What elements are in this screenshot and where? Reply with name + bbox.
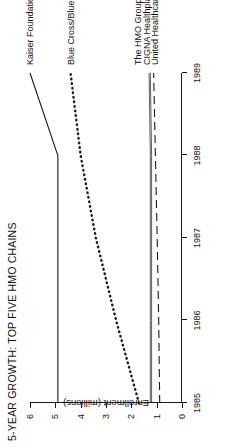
x-tick-label: 1987	[192, 228, 202, 248]
y-tick-label: 2	[126, 414, 136, 419]
x-tick-label: 1988	[192, 145, 202, 165]
series-label: Kaiser Foundation Health Plan	[25, 0, 35, 65]
x-tick-label: 1989	[192, 63, 202, 83]
y-tick-label: 4	[76, 414, 86, 419]
chart-title: 5-YEAR GROWTH: TOP FIVE HMO CHAINS	[6, 222, 18, 441]
x-tick	[182, 155, 187, 156]
rotated-chart-stage: 5-YEAR GROWTH: TOP FIVE HMO CHAINS 19851…	[0, 0, 237, 447]
series-line	[71, 73, 139, 403]
y-tick-label: 1	[152, 414, 162, 419]
x-tick	[182, 320, 187, 321]
series-label: United Healthcare Corp.	[150, 0, 160, 65]
plot-area: 19851986198719881989 0123456 Enrollment …	[30, 73, 182, 403]
y-tick	[182, 403, 183, 408]
y-tick	[157, 403, 158, 408]
x-tick	[182, 72, 187, 73]
y-tick-label: 0	[177, 414, 187, 419]
y-tick-label: 5	[50, 414, 60, 419]
x-tick	[182, 237, 187, 238]
series-line	[149, 73, 150, 403]
series-lines	[30, 73, 182, 403]
y-tick-label: 3	[101, 414, 111, 419]
series-line	[154, 73, 160, 403]
series-line	[30, 73, 58, 403]
y-tick	[30, 403, 31, 408]
y-tick-label: 6	[25, 414, 35, 419]
y-tick	[55, 403, 56, 408]
x-tick-label: 1985	[192, 393, 202, 413]
series-label: Blue Cross/Blue Shield	[66, 0, 76, 65]
x-tick-label: 1986	[192, 310, 202, 330]
